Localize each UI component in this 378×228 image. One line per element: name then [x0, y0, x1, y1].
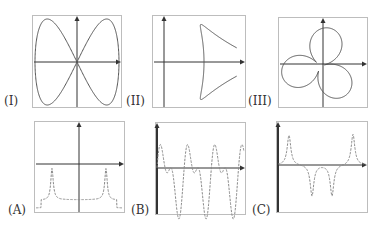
plot-svg: [276, 121, 368, 213]
label-C: (C): [252, 204, 271, 216]
label-A: (A): [8, 204, 26, 216]
y-axis-arrow-icon: [162, 16, 167, 21]
y-axis-arrow-icon: [75, 16, 80, 21]
plot-svg: [34, 121, 125, 213]
label-I: (I): [4, 95, 18, 107]
y-axis-arrow-icon: [77, 122, 82, 127]
label-II: (II): [126, 95, 145, 107]
panel-B-plot: [155, 122, 246, 215]
plot-svg: [155, 122, 246, 215]
plot-svg: [278, 17, 368, 108]
panel-II-loop-curve: [152, 15, 246, 108]
x-axis-arrow-icon: [119, 162, 124, 167]
label-III: (III): [248, 95, 272, 107]
label-B: (B): [131, 204, 149, 216]
panel-A-plot: [34, 121, 125, 213]
y-axis-arrow-icon: [321, 18, 326, 23]
curve: [282, 28, 352, 99]
curve: [157, 145, 244, 219]
plot-frame: [277, 122, 368, 213]
panel-I-figure-eight: [32, 15, 122, 108]
plot-svg: [152, 15, 246, 108]
panel-C-plot: [276, 121, 368, 213]
x-axis-arrow-icon: [240, 60, 245, 65]
x-axis-arrow-icon: [362, 62, 367, 67]
x-axis-arrow-icon: [240, 166, 245, 171]
plot-svg: [32, 15, 122, 108]
panel-III-three-loop-curve: [278, 17, 368, 108]
